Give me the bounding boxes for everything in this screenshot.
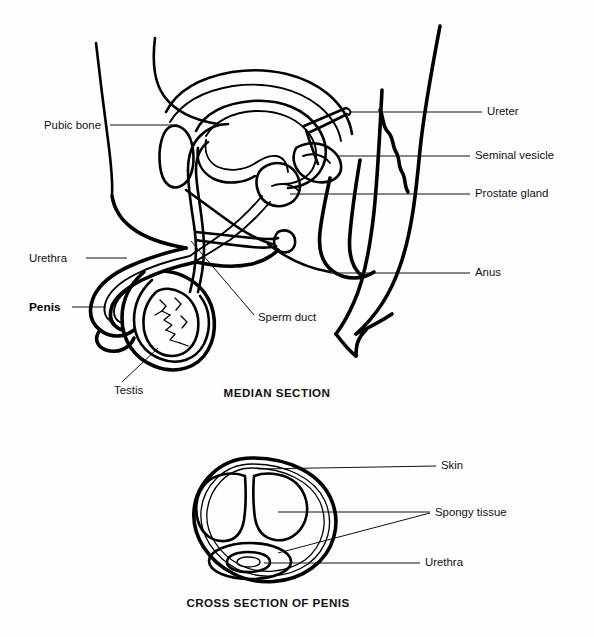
label-pubic-bone: Pubic bone	[44, 119, 101, 131]
label-testis: Testis	[114, 384, 143, 396]
upper-abdomen-arch	[154, 38, 218, 124]
cross-section-annotations: Skin Spongy tissue Urethra CROSS SECTION…	[186, 459, 506, 609]
rectum-back-wall	[350, 160, 363, 276]
urethra-lumen-inner	[237, 557, 260, 567]
testis-tubule-detail	[155, 298, 188, 346]
rectum-front-wall	[320, 178, 334, 272]
caption-median-section: MEDIAN SECTION	[224, 386, 331, 399]
sacrum-outline	[380, 110, 408, 192]
label-prostate-gland: Prostate gland	[475, 187, 548, 199]
label-penis: Penis	[29, 300, 61, 314]
label-spongy-tissue: Spongy tissue	[435, 506, 507, 518]
label-skin: Skin	[441, 459, 463, 471]
label-ureter: Ureter	[487, 105, 519, 117]
label-seminal-vesicle: Seminal vesicle	[475, 149, 554, 161]
epididymis-outline	[188, 170, 196, 292]
thigh-contour-lower	[336, 334, 356, 356]
corpus-cavernosum-right	[253, 474, 307, 541]
median-section-annotations: Pubic bone Urethra Penis Testis Sperm du…	[29, 105, 554, 399]
bladder-floor-fold	[206, 140, 289, 172]
sperm-duct-run-upper	[196, 232, 278, 239]
diagram-canvas: Pubic bone Urethra Penis Testis Sperm du…	[0, 0, 594, 637]
leader-spongy-tissue-lower	[278, 513, 430, 553]
label-sperm-duct: Sperm duct	[258, 311, 317, 323]
anatomy-figure: Pubic bone Urethra Penis Testis Sperm du…	[0, 0, 594, 637]
leader-skin	[258, 466, 436, 469]
ureter-tip-cap	[346, 108, 350, 115]
peritoneum-inner-outline	[170, 85, 341, 141]
label-urethra-cross: Urethra	[425, 556, 464, 568]
gluteal-cleft-contour	[336, 90, 382, 334]
prostate-inner-detail	[272, 184, 299, 191]
label-anus: Anus	[475, 266, 501, 278]
testis-outline	[144, 289, 199, 356]
buttock-outer-contour	[356, 26, 440, 334]
penile-bulb-sweep	[196, 250, 278, 266]
skin-inner-line	[201, 464, 330, 576]
corpus-cavernosum-left	[196, 474, 245, 541]
caption-cross-section: CROSS SECTION OF PENIS	[186, 596, 349, 609]
front-torso-outline	[112, 196, 186, 248]
label-urethra-median: Urethra	[29, 252, 68, 264]
